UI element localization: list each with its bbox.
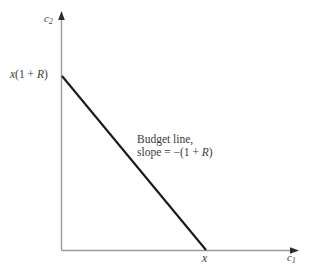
y-axis-arrowhead — [58, 11, 65, 20]
y-intercept-close: ) — [44, 68, 48, 80]
annotation-rate-symbol: R — [202, 146, 209, 158]
annotation-line-2: slope = −(1 + R) — [137, 146, 213, 159]
x-intercept-variable: x — [202, 252, 207, 264]
x-axis-title-subscript: 1 — [292, 256, 296, 265]
annotation-slope-suffix: ) — [209, 146, 213, 158]
y-axis-title-subscript: 2 — [49, 17, 53, 26]
x-intercept-label: x — [202, 252, 207, 265]
annotation-line-1: Budget line, — [137, 133, 213, 146]
budget-line-figure: c2 c1 x(1 + R) x Budget line, slope = −(… — [0, 0, 316, 279]
y-axis-title: c2 — [44, 12, 53, 24]
budget-line — [62, 76, 206, 250]
y-intercept-open: (1 + — [15, 68, 37, 80]
annotation-slope-prefix: slope = −(1 + — [137, 146, 202, 158]
y-intercept-label: x(1 + R) — [10, 68, 48, 81]
x-axis-title: c1 — [287, 251, 296, 263]
budget-line-annotation: Budget line, slope = −(1 + R) — [137, 133, 213, 159]
y-intercept-rate-symbol: R — [37, 68, 44, 80]
